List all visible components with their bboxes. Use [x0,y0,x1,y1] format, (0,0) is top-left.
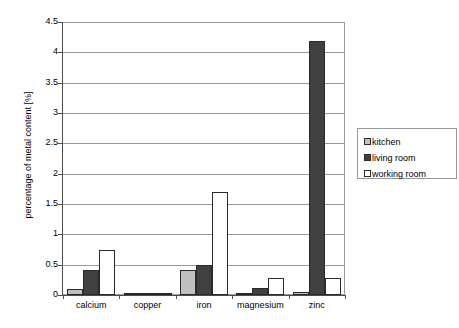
x-tick-label: calcium [63,300,119,310]
legend-item[interactable]: living room [364,150,456,165]
legend-swatch-icon [364,154,371,161]
bar [83,270,99,295]
bar [124,293,140,295]
legend-label: kitchen [372,137,401,147]
bar-group [119,22,175,295]
x-tick-mark [345,295,346,299]
bar [309,41,325,295]
bar [212,192,228,295]
x-tick-mark [232,295,233,299]
bar [156,293,172,295]
bar [325,278,341,295]
bar [67,289,83,295]
y-tick-label: 0 [2,290,58,299]
x-tick-label: iron [176,300,232,310]
x-tick-label: zinc [289,300,345,310]
y-tick-label: 4 [2,47,58,56]
bar [293,292,309,295]
legend-label: working room [372,169,426,179]
y-tick-label: 0.5 [2,260,58,269]
x-tick-label: copper [119,300,175,310]
y-tick-label: 3 [2,108,58,117]
bar-group [289,22,345,295]
x-axis-line [62,295,346,296]
bar [180,270,196,295]
bar-group [63,22,119,295]
bar-group [232,22,288,295]
bar [252,288,268,295]
legend-item[interactable]: kitchen [364,134,456,149]
y-tick-label: 2 [2,169,58,178]
y-tick-label: 4.5 [2,17,58,26]
legend-item[interactable]: working room [364,166,456,181]
legend-swatch-icon [364,138,371,145]
x-tick-mark [119,295,120,299]
bar [268,278,284,295]
x-tick-mark [176,295,177,299]
chart-container: percentage of metal content [%] 00.511.5… [0,0,459,328]
y-tick-label: 1.5 [2,199,58,208]
legend-swatch-icon [364,170,371,177]
y-tick-label: 1 [2,229,58,238]
x-tick-mark [289,295,290,299]
bar [236,293,252,295]
bar-group [176,22,232,295]
x-tick-mark [63,295,64,299]
y-axis-ticks: 00.511.522.533.544.5 [0,0,58,328]
legend-label: living room [372,153,416,163]
bar [99,250,115,296]
bar [140,293,156,295]
y-tick-label: 3.5 [2,78,58,87]
x-tick-label: magnesium [232,300,288,310]
bars-layer [63,22,345,295]
bar [196,265,212,295]
y-tick-label: 2.5 [2,138,58,147]
chart-legend: kitchenliving roomworking room [357,128,457,179]
